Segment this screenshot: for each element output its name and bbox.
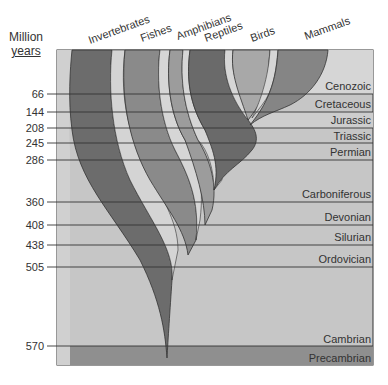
tick-570: 570 bbox=[26, 340, 44, 352]
period-cenozoic: Cenozoic bbox=[325, 80, 371, 92]
group-labels: Invertebrates Fishes Amphibians Reptiles… bbox=[87, 11, 352, 46]
evolution-diagram: Million years bbox=[0, 0, 388, 385]
tick-66: 66 bbox=[32, 88, 44, 100]
period-permian: Permian bbox=[330, 146, 371, 158]
tick-438: 438 bbox=[26, 239, 44, 251]
period-carboniferous: Carboniferous bbox=[302, 188, 372, 200]
period-triassic: Triassic bbox=[334, 130, 372, 142]
period-devonian: Devonian bbox=[325, 211, 371, 223]
y-axis-title-line2: years bbox=[4, 44, 48, 58]
tick-505: 505 bbox=[26, 261, 44, 273]
diagram-svg: 66 144 208 245 286 360 408 438 505 570 C… bbox=[0, 0, 388, 385]
period-jurassic: Jurassic bbox=[331, 114, 372, 126]
tick-labels: 66 144 208 245 286 360 408 438 505 570 bbox=[26, 88, 44, 352]
label-mammals: Mammals bbox=[303, 14, 352, 42]
tick-208: 208 bbox=[26, 122, 44, 134]
period-precambrian: Precambrian bbox=[309, 352, 371, 364]
period-cretaceous: Cretaceous bbox=[315, 98, 372, 110]
y-axis-title-line1: Million bbox=[4, 30, 48, 44]
tick-408: 408 bbox=[26, 219, 44, 231]
y-axis-title: Million years bbox=[4, 30, 48, 58]
period-cambrian: Cambrian bbox=[323, 333, 371, 345]
strip-left bbox=[57, 50, 71, 365]
tick-144: 144 bbox=[26, 106, 44, 118]
tick-286: 286 bbox=[26, 154, 44, 166]
tick-245: 245 bbox=[26, 137, 44, 149]
label-birds: Birds bbox=[249, 24, 277, 44]
tick-360: 360 bbox=[26, 196, 44, 208]
period-silurian: Silurian bbox=[334, 231, 371, 243]
period-ordovician: Ordovician bbox=[318, 253, 371, 265]
